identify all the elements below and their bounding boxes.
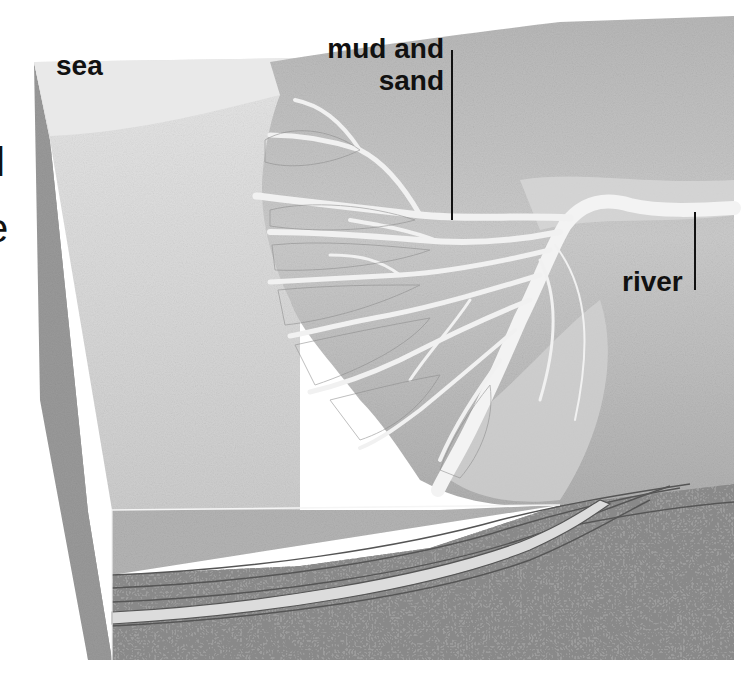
label-mud-and-sand-line2: sand bbox=[300, 65, 444, 97]
leader-line-river bbox=[694, 212, 696, 290]
leader-line-mud-and-sand bbox=[451, 50, 453, 220]
label-sea: sea bbox=[56, 52, 103, 80]
label-river: river bbox=[622, 268, 683, 296]
label-mud-and-sand: mud and sand bbox=[300, 33, 444, 97]
label-mud-and-sand-line1: mud and bbox=[300, 33, 444, 65]
cropped-text-fragment-lower: e bbox=[0, 206, 8, 251]
cropped-text-fragment-upper: l bbox=[0, 140, 5, 185]
delta-block-diagram bbox=[0, 0, 742, 696]
